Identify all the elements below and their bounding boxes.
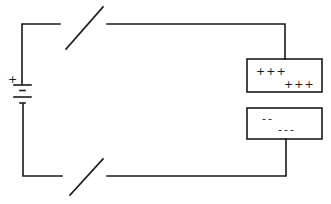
wire-top-right [107,24,285,59]
bottom-plate-charges-1: -- [262,112,274,125]
circuit-diagram: + +++ +++ -- --- [0,0,331,204]
bottom-switch-blade [70,159,103,195]
top-plate-charges-1: +++ [256,65,287,78]
bottom-plate-charges-2: --- [278,123,296,136]
wire-top-left [22,24,60,84]
top-switch-blade [66,7,103,49]
battery-positive-label: + [8,73,17,86]
battery: + [8,73,31,103]
wire-bottom-left [23,104,62,176]
top-plate-charges-2: +++ [284,78,315,91]
wire-bottom-right [107,139,286,176]
